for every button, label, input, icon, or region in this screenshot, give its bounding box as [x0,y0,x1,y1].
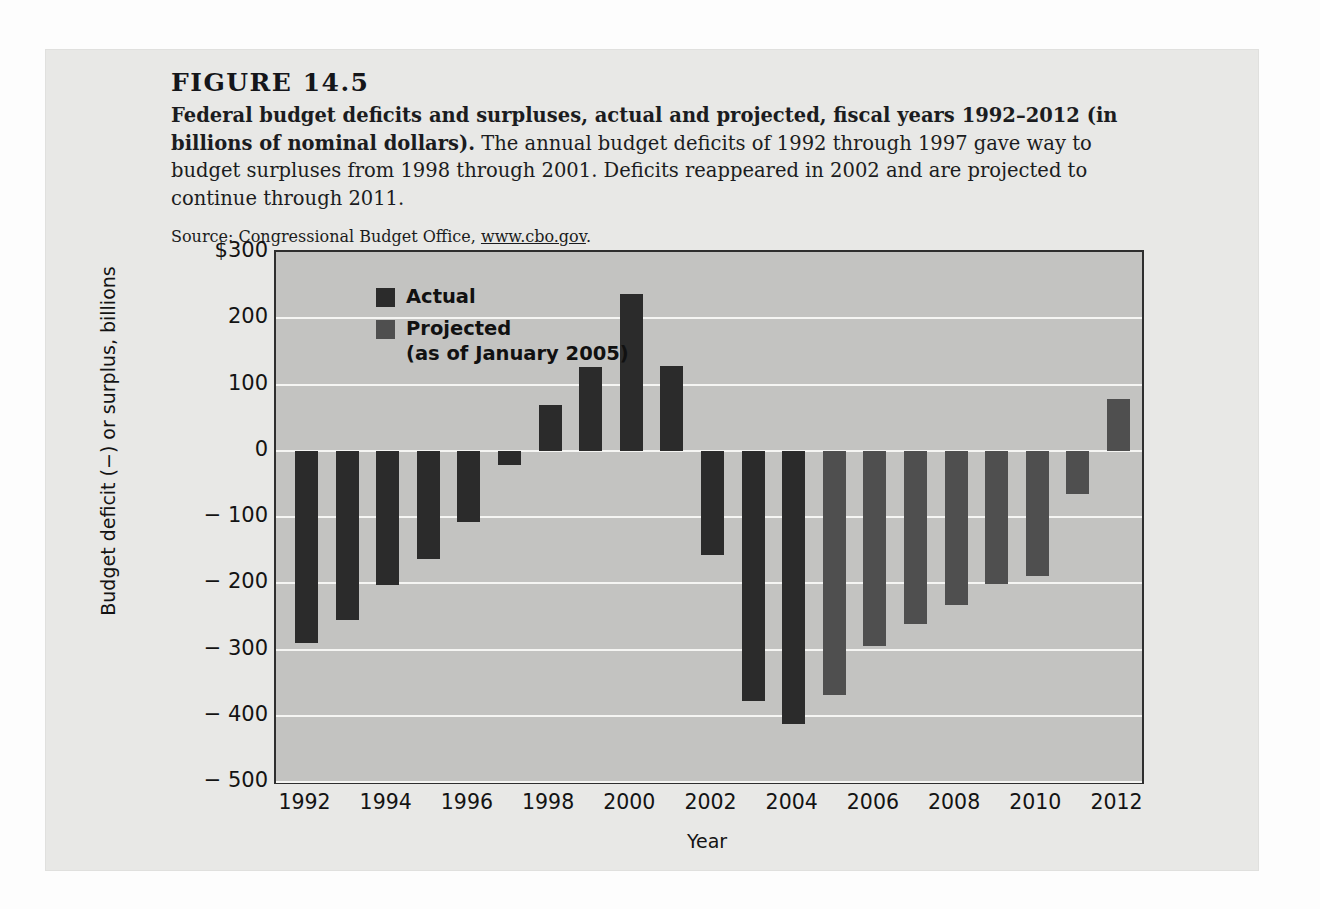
y-axis-tick: $300 [182,238,268,262]
bar-2004 [782,451,805,724]
y-axis-tick: − 400 [182,702,268,726]
legend-label-actual: Actual [406,285,476,310]
bar-2011 [1066,451,1089,494]
bar-2007 [904,451,927,624]
x-axis-tick: 1994 [351,790,421,814]
bar-1995 [417,451,440,560]
figure-panel: FIGURE 14.5 Federal budget deficits and … [46,50,1258,870]
x-axis-tick: 2002 [676,790,746,814]
bar-2003 [742,451,765,701]
bar-1992 [295,451,318,643]
bar-1998 [539,405,562,451]
x-axis-tick: 2012 [1082,790,1152,814]
gridline [276,781,1142,783]
y-axis-tick: 200 [182,304,268,328]
bar-1993 [336,451,359,620]
legend-swatch-projected-icon [376,320,395,339]
legend-label-projected: Projected (as of January 2005) [406,317,629,367]
x-axis-tick: 1996 [432,790,502,814]
bar-2005 [823,451,846,695]
x-axis-tick: 2004 [757,790,827,814]
bar-1999 [579,367,602,450]
chart: Budget deficit (−) or surplus, billions … [46,50,1258,870]
x-axis-tick: 2010 [1000,790,1070,814]
bar-2002 [701,451,724,556]
y-axis-tick: 0 [182,437,268,461]
y-axis-tick: 100 [182,371,268,395]
bar-2012 [1107,399,1130,451]
bar-1997 [498,451,521,466]
x-axis-tick-labels: 1992199419961998200020022004200620082010… [274,790,1144,824]
bar-2009 [985,451,1008,584]
bar-2006 [863,451,886,646]
plot-area: Actual Projected (as of January 2005) [274,250,1144,784]
gridline [276,649,1142,651]
page-background: FIGURE 14.5 Federal budget deficits and … [0,0,1320,909]
gridline [276,582,1142,584]
bar-1996 [457,451,480,522]
legend-item-projected: Projected (as of January 2005) [376,317,629,367]
y-axis-tick: − 200 [182,569,268,593]
gridline [276,384,1142,386]
bar-2008 [945,451,968,605]
x-axis-tick: 2000 [594,790,664,814]
y-axis-tick-labels: $3002001000− 100− 200− 300− 400− 500 [172,250,268,780]
x-axis-tick: 2006 [838,790,908,814]
y-axis-tick: − 100 [182,503,268,527]
y-axis-tick: − 500 [182,768,268,792]
y-axis-tick: − 300 [182,636,268,660]
x-axis-tick: 1992 [270,790,340,814]
bar-2001 [660,366,683,451]
bar-2010 [1026,451,1049,576]
chart-legend: Actual Projected (as of January 2005) [376,285,629,374]
y-axis-title: Budget deficit (−) or surplus, billions [97,231,119,651]
bar-1994 [376,451,399,585]
x-axis-tick: 2008 [919,790,989,814]
gridline [276,715,1142,717]
legend-item-actual: Actual [376,285,629,310]
x-axis-title: Year [274,830,1140,852]
legend-swatch-actual-icon [376,288,395,307]
x-axis-tick: 1998 [513,790,583,814]
